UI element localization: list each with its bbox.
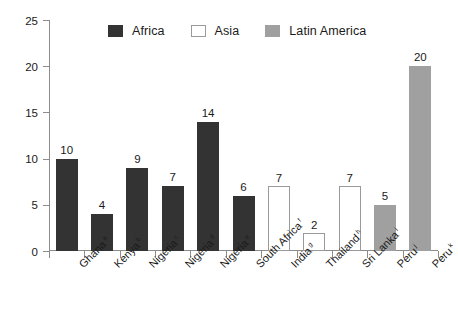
x-axis-category-label: Nigeriac [146,261,155,270]
y-axis-tick-label: 15 [25,107,38,119]
bar-value-label: 2 [311,219,317,231]
x-axis-category-label: South Africaf [253,261,262,270]
bar[interactable]: 14 [197,122,219,251]
x-axis-category-label: Nigeriae [217,261,226,270]
bar-value-label: 4 [99,199,105,211]
x-axis-category-label: Indiag [288,261,297,270]
y-axis-tick-label: 25 [25,15,38,27]
bar-value-label: 10 [60,144,73,156]
y-axis-tick-label: 10 [25,153,38,165]
y-axis-tick-label: 5 [32,199,38,211]
x-axis-category-label: Thailandh [323,261,332,270]
bar-value-label: 9 [134,153,140,165]
bar-value-label: 6 [240,181,246,193]
x-axis-category-label: Sri Lankai [359,261,368,270]
bar[interactable]: 20 [409,66,431,251]
bar-value-label: 7 [276,172,282,184]
bar-value-label: 7 [346,172,352,184]
plot-area: 10497146727520 [49,20,438,251]
y-axis-tick-label: 20 [25,61,38,73]
y-axis-tick-label: 0 [32,246,38,258]
bar[interactable]: 10 [56,159,78,251]
x-axis-category-label: Peruk [429,261,438,270]
x-axis-tick [49,251,50,258]
x-axis-category-label: Peruj [394,261,403,270]
x-axis-category-label: Kenyab [111,261,120,270]
x-axis-category-label: Ghanaa [76,261,85,270]
bar-value-label: 20 [414,51,427,63]
bar-value-label: 5 [382,190,388,202]
bar-value-label: 14 [202,107,215,119]
bar-value-label: 7 [170,171,176,183]
x-axis-category-label: Nigeriad [182,261,191,270]
